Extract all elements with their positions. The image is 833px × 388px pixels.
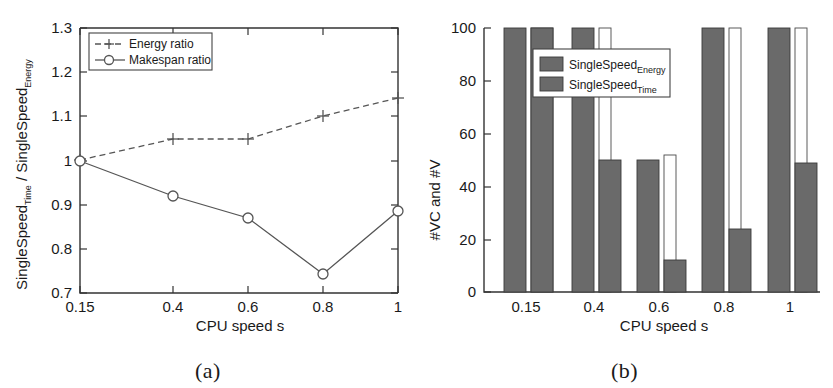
legend-label: Energy ratio	[129, 37, 194, 51]
y-axis-title-a: SingleSpeedTime / SingleSpeedEnergy	[13, 59, 33, 290]
bar-energy[interactable]	[768, 28, 790, 292]
x-tick-label: 0.4	[584, 298, 605, 315]
bar-time[interactable]	[729, 229, 751, 292]
panel-a-line-chart: SingleSpeedTime / SingleSpeedEnergy 1.3 …	[0, 0, 416, 388]
panel-b-bar-chart: #VC and #V 100 80 60 40 20 0	[416, 0, 833, 388]
bar-group-0-8	[702, 28, 751, 292]
series-makespan-ratio	[75, 156, 403, 279]
x-tick-label: 0.6	[649, 298, 670, 315]
y-tick-label: 1.1	[51, 107, 72, 124]
x-axis-title-b: CPU speed s	[620, 317, 708, 334]
y-tick-label: 1.2	[51, 63, 72, 80]
y-tick-labels-a: 1.3 1.2 1.1 1 0.9 0.8 0.7	[51, 19, 72, 301]
bar-group-1	[768, 28, 817, 292]
y-tick-label: 1	[64, 152, 72, 169]
line-chart-svg: SingleSpeedTime / SingleSpeedEnergy 1.3 …	[0, 0, 416, 355]
x-tick-label: 0.15	[511, 298, 540, 315]
panel-a-caption: (a)	[0, 358, 416, 384]
y-axis-title-b: #VC and #V	[426, 160, 443, 241]
x-tick-labels-a: 0.15 0.4 0.6 0.8 1	[65, 298, 402, 315]
legend-swatch-energy-icon	[540, 57, 563, 71]
bar-energy[interactable]	[702, 28, 724, 292]
bar-time[interactable]	[599, 160, 621, 292]
x-tick-label: 0.15	[65, 298, 94, 315]
y-tick-label: 80	[459, 72, 476, 89]
x-tick-labels-b: 0.15 0.4 0.6 0.8 1	[511, 298, 794, 315]
bar-group-0-6	[637, 155, 686, 292]
y-tick-labels-b: 100 80 60 40 20 0	[451, 19, 476, 300]
x-tick-label: 0.8	[714, 298, 735, 315]
marker-plus	[74, 92, 404, 166]
legend-b[interactable]: SingleSpeedEnergy SingleSpeedTime	[533, 49, 670, 97]
y-ticks-b	[484, 28, 491, 292]
bar-chart-svg: #VC and #V 100 80 60 40 20 0	[416, 0, 833, 355]
y-tick-label: 20	[459, 231, 476, 248]
legend-marker-circle-icon	[105, 56, 114, 65]
svg-text:SingleSpeedTime / SingleSpeedE: SingleSpeedTime / SingleSpeedEnergy	[13, 59, 33, 290]
bar-time[interactable]	[664, 260, 686, 292]
y-tick-label: 0.8	[51, 240, 72, 257]
x-tick-label: 1	[394, 298, 402, 315]
bar-energy[interactable]	[637, 160, 659, 292]
y-tick-label: 40	[459, 178, 476, 195]
x-tick-label: 1	[786, 298, 794, 315]
x-tick-label: 0.4	[163, 298, 184, 315]
figure-container: SingleSpeedTime / SingleSpeedEnergy 1.3 …	[0, 0, 833, 388]
x-axis-title-a: CPU speed s	[196, 317, 284, 334]
y-tick-label: 100	[451, 19, 476, 36]
bar-time[interactable]	[795, 163, 817, 292]
y-tick-label: 0	[468, 283, 476, 300]
marker-circle	[75, 156, 403, 279]
y-tick-label: 1.3	[51, 19, 72, 36]
x-tick-label: 0.8	[313, 298, 334, 315]
y-tick-label: 0.9	[51, 196, 72, 213]
panel-b-caption: (b)	[416, 358, 833, 384]
y-tick-label: 60	[459, 125, 476, 142]
legend-a[interactable]: Energy ratio Makespan ratio	[89, 33, 212, 70]
x-tick-label: 0.6	[238, 298, 259, 315]
bar-energy[interactable]	[504, 28, 526, 292]
legend-label: Makespan ratio	[129, 53, 211, 67]
series-energy-ratio	[74, 92, 404, 166]
legend-swatch-time-icon	[540, 77, 563, 91]
